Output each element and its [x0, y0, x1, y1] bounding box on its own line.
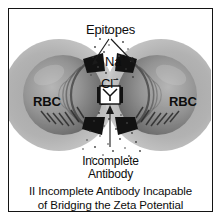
chloride-charge: − [113, 74, 119, 85]
label-incomplete-antibody: Incomplete Antibody [9, 155, 212, 180]
chloride-symbol: Cl [101, 76, 113, 91]
label-rbc-left: RBC [33, 95, 61, 109]
figure-border: Epitopes Na+ Cl− RBC RBC Incomplete Anti… [8, 8, 213, 212]
label-antibody-line2: Antibody [9, 168, 212, 181]
label-antibody-line1: Incomplete [9, 155, 212, 168]
label-chloride-ion: Cl− [101, 77, 119, 91]
label-sodium-ion: Na+ [105, 55, 126, 69]
label-rbc-right: RBC [169, 95, 197, 109]
sodium-charge: + [121, 53, 126, 63]
figure-panel: Epitopes Na+ Cl− RBC RBC Incomplete Anti… [0, 0, 224, 221]
figure-caption: II Incomplete Antibody Incapable of Brid… [17, 185, 204, 212]
label-epitopes: Epitopes [9, 23, 212, 37]
caption-line-1: II Incomplete Antibody Incapable [17, 185, 204, 199]
diagram-canvas [9, 9, 212, 211]
sodium-symbol: Na [105, 54, 121, 69]
caption-line-2: of Bridging the Zeta Potential [17, 199, 204, 213]
